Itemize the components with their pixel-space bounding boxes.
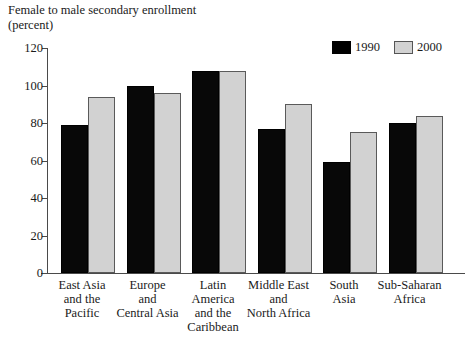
plot-area: 020406080100120 — [47, 48, 465, 273]
y-tick-label: 60 — [31, 155, 44, 167]
y-tick-label: 40 — [31, 192, 44, 204]
y-tick-label: 120 — [24, 42, 43, 54]
bar-2000-1 — [154, 93, 181, 273]
bar-2000-2 — [219, 71, 246, 274]
bar-2000-0 — [88, 97, 115, 273]
y-tick-label: 100 — [24, 80, 43, 92]
x-axis-line — [41, 273, 465, 274]
chart-figure: Female to male secondary enrollment (per… — [0, 0, 473, 340]
bar-series-container — [47, 48, 465, 273]
bar-1990-3 — [258, 129, 285, 273]
bar-1990-2 — [192, 71, 219, 274]
bar-2000-3 — [285, 104, 312, 273]
bar-2000-5 — [416, 116, 443, 274]
bar-1990-1 — [127, 86, 154, 274]
chart-title: Female to male secondary enrollment (per… — [8, 3, 308, 32]
bar-1990-0 — [61, 125, 88, 273]
bar-2000-4 — [350, 132, 377, 273]
bar-1990-5 — [389, 123, 416, 273]
y-tick-label: 80 — [31, 117, 44, 129]
bar-1990-4 — [323, 162, 350, 273]
y-tick-label: 20 — [31, 230, 44, 242]
x-axis-category-labels: East Asia and the PacificEurope and Cent… — [41, 278, 471, 338]
category-label-5: Sub-Saharan Africa — [371, 278, 449, 306]
